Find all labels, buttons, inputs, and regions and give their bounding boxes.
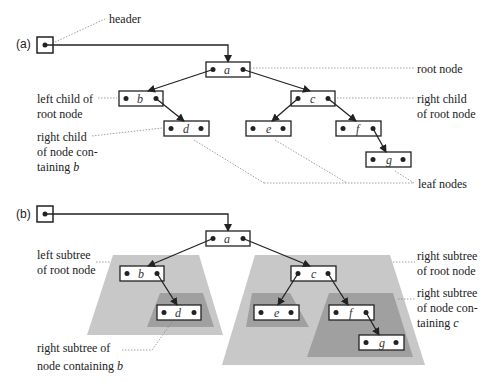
left-subtree-label-2: of root node [37,263,96,277]
svg-text:g: g [386,153,392,167]
node-e: e [246,121,291,136]
svg-text:c: c [310,92,316,106]
svg-text:b: b [138,267,144,281]
svg-text:e: e [274,306,280,320]
svg-text:g: g [379,336,385,350]
binary-tree-diagram: (a) header a b c d [0,0,493,383]
svg-text:d: d [183,122,190,136]
svg-text:b: b [137,92,143,106]
svg-text:a: a [224,232,230,246]
right-subtree-label-1: right subtree [417,249,477,263]
node-f-b: f [329,305,374,320]
header-label: header [109,12,141,26]
node-f: f [336,121,381,136]
right-child-b-label-2: of node con- [37,145,98,159]
node-g-b: g [359,335,404,350]
svg-text:a: a [224,63,230,77]
right-subtree-label-2: of root node [417,264,476,278]
root-node-label: root node [417,62,463,76]
svg-text:d: d [175,306,182,320]
right-child-label-1: right child [417,92,467,106]
node-g: g [366,152,411,167]
panel-a-label: (a) [16,37,31,51]
left-child-label-2: root node [37,107,83,121]
right-child-b-label-3: taining b [37,160,79,174]
right-child-b-label-1: right child [37,130,87,144]
panel-b-label: (b) [16,207,31,221]
node-e-b: e [254,305,299,320]
panel-a: (a) header a b c d [16,12,476,191]
node-d-b: d [157,305,201,320]
right-subtree-c-label-2: of node con- [417,301,478,315]
right-subtree-c-label-3: taining c [417,316,459,330]
svg-text:e: e [266,122,272,136]
right-child-label-2: of root node [417,107,476,121]
svg-text:c: c [311,267,317,281]
leaf-nodes-label: leaf nodes [418,177,467,191]
node-d: d [164,121,209,136]
left-child-label-1: left child of [37,92,93,106]
right-subtree-c-label-1: right subtree [417,286,477,300]
left-subtree-label-1: left subtree [37,248,91,262]
panel-b: (b) a b c d [16,206,478,373]
right-subtree-b-label-2: node containing b [37,359,123,373]
right-subtree-b-label-1: right subtree of [37,341,110,355]
header-leader [55,19,105,42]
